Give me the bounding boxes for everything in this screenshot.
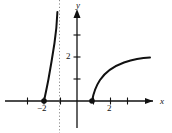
x-tick-label-2: 2 bbox=[107, 104, 112, 113]
curve-left-branch bbox=[44, 12, 57, 101]
x-axis-arrow-icon bbox=[145, 98, 153, 104]
y-axis-label: y bbox=[76, 1, 80, 10]
x-tick-label-neg2: −2 bbox=[37, 104, 47, 113]
y-tick-label-2: 2 bbox=[66, 52, 71, 61]
x-axis-label: x bbox=[160, 97, 164, 106]
curve-right-branch bbox=[92, 57, 150, 101]
y-axis-arrow-icon bbox=[74, 9, 81, 18]
graph-figure: x y −2 2 2 bbox=[0, 0, 172, 133]
closed-endpoint-right bbox=[89, 98, 95, 104]
coordinate-plot bbox=[0, 0, 172, 133]
